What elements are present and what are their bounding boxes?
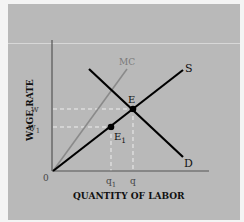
labor-market-chart: w w1 0 q1 q E E1 S D MC QUANTITY OF LABO…	[0, 0, 244, 222]
monopsony-point-e1	[108, 124, 115, 131]
e-label: E	[128, 94, 135, 105]
origin-label: 0	[43, 173, 49, 183]
q-tick-label: q	[130, 176, 136, 186]
equilibrium-point-e	[130, 106, 137, 113]
supply-curve	[53, 70, 183, 171]
mc-label: MC	[119, 57, 135, 67]
e1-label: E1	[114, 131, 126, 145]
q1-tick-label: q1	[106, 176, 116, 189]
y-axis-label: WAGE RATE	[25, 79, 35, 142]
d-label: D	[184, 157, 193, 170]
x-axis-label: QUANTITY OF LABOR	[73, 191, 185, 201]
s-label: S	[185, 62, 193, 75]
mc-curve	[53, 69, 127, 171]
